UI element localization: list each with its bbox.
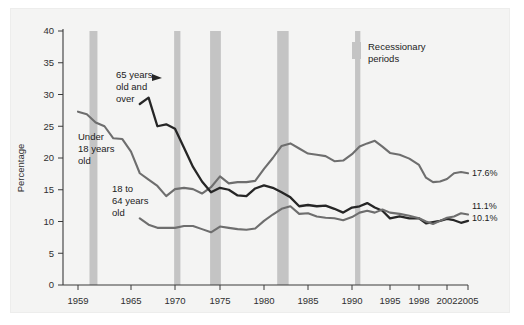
x-axis-tick-label: 1975: [209, 295, 230, 306]
y-axis-title: Percentage: [15, 144, 26, 193]
chart-figure: 0510152025303540195919651970197519801985…: [0, 0, 524, 325]
x-axis-tick-label: 1965: [120, 295, 141, 306]
recession-band: [355, 31, 360, 285]
series-line: [140, 206, 468, 232]
y-axis-tick-label: 0: [49, 279, 54, 290]
poverty-rate-line-chart: 0510152025303540195919651970197519801985…: [0, 0, 524, 325]
recession-band: [277, 31, 288, 285]
series-line: [140, 98, 468, 224]
x-axis-tick-label: 1980: [253, 295, 274, 306]
y-axis-tick-label: 25: [43, 121, 54, 132]
x-axis-tick-label: 2005: [457, 295, 478, 306]
y-axis-tick-label: 5: [49, 248, 54, 259]
y-axis-tick-label: 30: [43, 89, 54, 100]
recession-band: [210, 31, 221, 285]
x-axis-tick-label: 1990: [341, 295, 362, 306]
x-axis-tick-label: 1959: [67, 295, 88, 306]
series-end-value-label: 17.6%: [472, 168, 498, 178]
x-axis-tick-label: 1998: [408, 295, 429, 306]
y-axis-tick-label: 40: [43, 25, 54, 36]
x-axis-tick-label: 1970: [164, 295, 185, 306]
x-axis-tick-label: 1985: [297, 295, 318, 306]
callout-arrow-icon: [152, 74, 162, 81]
recession-band: [174, 31, 180, 285]
series-name-label: 18 to64 yearsold: [112, 183, 149, 218]
legend-label-line1: Recessionary: [368, 41, 426, 52]
legend-label-line2: periods: [368, 53, 399, 64]
legend-swatch-recession: [352, 42, 361, 59]
y-axis-tick-label: 35: [43, 57, 54, 68]
y-axis-tick-label: 20: [43, 152, 54, 163]
series-line: [78, 112, 468, 196]
data-series-group: [78, 98, 468, 233]
x-axis-tick-label: 2002: [436, 295, 457, 306]
series-end-value-label: 11.1%: [472, 201, 497, 211]
y-axis-tick-label: 10: [43, 216, 54, 227]
series-end-value-label: 10.1%: [472, 213, 498, 223]
x-axis-tick-label: 1995: [379, 295, 400, 306]
y-axis-tick-label: 15: [43, 184, 54, 195]
chart-legend: Recessionaryperiods: [352, 41, 426, 64]
